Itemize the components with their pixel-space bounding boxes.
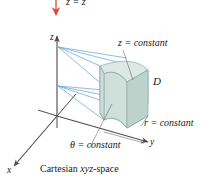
axis-label-y: y xyxy=(150,138,154,148)
caption-suffix: -space xyxy=(93,163,119,174)
figure-caption: Cartesian xyz-space xyxy=(40,164,119,174)
caption-italic-xyz: xyz xyxy=(80,163,93,174)
axis-label-z: z xyxy=(50,33,54,43)
solid-curved-front-face xyxy=(104,72,127,128)
annotation-theta-constant: θ = constant xyxy=(70,140,121,150)
caption-prefix: Cartesian xyxy=(40,163,80,174)
axis-x xyxy=(14,116,57,166)
cartesian-xyz-figure: z = z z y x z = constant r = constant θ … xyxy=(0,0,211,182)
annotation-z-constant: z = constant xyxy=(118,38,168,48)
top-equation-label: z = z xyxy=(66,0,86,7)
annotation-r-constant: r = constant xyxy=(144,118,194,128)
figure-canvas xyxy=(0,0,211,182)
region-label-d: D xyxy=(153,76,161,87)
solid-back-slab xyxy=(100,66,104,120)
axis-label-x: x xyxy=(7,166,11,176)
